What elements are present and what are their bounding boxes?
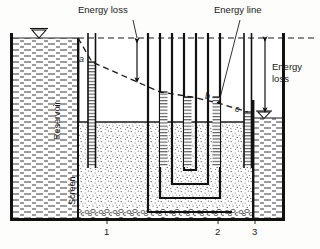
label-screen: Screen [68,176,77,205]
label-point-a: a [79,55,84,64]
downstream-tailwater-pool [252,100,282,218]
point-markers [218,101,221,104]
seepage-energy-diagram: Energy loss Energy line Energy loss a b … [0,0,320,249]
label-point-c: c [235,105,240,114]
diagram-canvas [0,0,320,249]
piezometer-tube-4 [213,97,221,167]
label-station-1: 1 [104,227,109,237]
piezometer-tube-3 [184,97,192,167]
label-energy-loss-top: Energy loss [78,5,128,15]
label-station-3: 3 [252,227,257,237]
label-energy-line: Energy line [214,5,262,15]
label-station-2: 2 [215,227,220,237]
station-tick-guides [107,221,255,224]
label-energy-loss-side-line2: loss [272,74,289,85]
label-point-b: b [205,92,210,101]
label-reservoir: Reservoir [53,101,62,140]
label-energy-loss-side-line1: Energy [272,62,302,73]
piezometer-tube-2 [160,92,168,167]
